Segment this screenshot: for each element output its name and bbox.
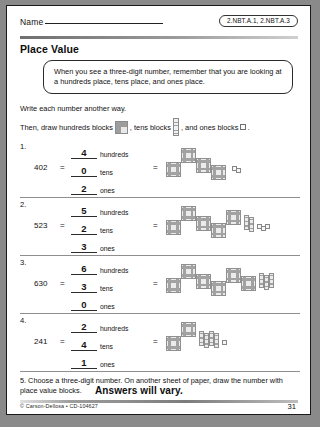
hundreds-answer[interactable]: 4 (71, 147, 97, 160)
equals-sign: = (60, 163, 65, 172)
block-drawing-area[interactable] (166, 202, 300, 252)
ones-unit-label: ones (100, 303, 115, 311)
page-title: Place Value (20, 43, 79, 55)
hundreds-block (241, 276, 256, 291)
ones-answer[interactable]: 0 (71, 299, 97, 312)
hundreds-block (166, 162, 181, 177)
ones-answer[interactable]: 2 (71, 183, 97, 196)
page-number: 31 (288, 402, 296, 411)
hundreds-block (196, 216, 211, 231)
tens-row: 4 tens (71, 333, 145, 351)
directions-line-2-a: Then, draw hundreds blocks (20, 122, 113, 133)
tens-block (249, 217, 254, 232)
problem-value: 241 (34, 337, 47, 346)
hundreds-block (196, 274, 211, 289)
hundreds-row: 6 hundreds (71, 257, 145, 275)
hundreds-block (226, 210, 241, 225)
ones-answer[interactable]: 1 (71, 357, 97, 370)
hundreds-block (166, 278, 181, 293)
problem-row: 1. 402 = 4 hundreds 0 tens 2 ones = (20, 140, 300, 198)
tens-block (214, 333, 219, 348)
tens-answer[interactable]: 4 (71, 339, 97, 352)
ones-block (222, 340, 227, 345)
problem-value: 402 (34, 163, 47, 172)
tens-block (269, 273, 274, 288)
name-write-line[interactable] (45, 23, 163, 24)
tens-row: 0 tens (71, 159, 145, 177)
ones-row: 0 ones (71, 293, 145, 311)
header-divider (20, 36, 298, 39)
hundreds-block (196, 158, 211, 173)
equals-sign-2: = (153, 221, 158, 230)
problem-number: 4. (20, 316, 26, 325)
worksheet-page: Name 2.NBT.A.1, 2.NBT.A.3 Place Value Wh… (6, 5, 311, 415)
hundreds-answer[interactable]: 6 (71, 263, 97, 276)
ones-answer[interactable]: 3 (71, 241, 97, 254)
ones-unit-label: ones (100, 361, 115, 369)
ones-row: 1 ones (71, 351, 145, 369)
ones-block (265, 224, 270, 229)
hundreds-unit-label: hundreds (100, 325, 128, 333)
name-label: Name (20, 17, 43, 27)
answers-will-vary-note: Answers will vary. (95, 385, 183, 396)
hundreds-block (211, 165, 226, 180)
problem-number: 2. (20, 200, 26, 209)
answer-stack: 4 hundreds 0 tens 2 ones (71, 141, 145, 195)
problem-row: 4. 241 = 2 hundreds 4 tens 1 ones = (20, 314, 300, 372)
hundreds-row: 5 hundreds (71, 199, 145, 217)
info-callout: When you see a three-digit number, remem… (43, 60, 293, 94)
directions: Write each number another way. Then, dra… (20, 103, 300, 136)
tens-answer[interactable]: 0 (71, 165, 97, 178)
block-drawing-area[interactable] (166, 260, 300, 310)
directions-line-1-text: Write each number another way. (20, 103, 126, 114)
ones-row: 3 ones (71, 235, 145, 253)
tens-answer[interactable]: 2 (71, 223, 97, 236)
directions-line-1: Write each number another way. (20, 103, 300, 114)
hundreds-block (166, 220, 181, 235)
answer-stack: 6 hundreds 3 tens 0 ones (71, 257, 145, 311)
problem-value: 523 (34, 221, 47, 230)
hundreds-block (181, 148, 196, 163)
hundreds-answer[interactable]: 5 (71, 205, 97, 218)
equals-sign: = (60, 221, 65, 230)
problem-value: 630 (34, 279, 47, 288)
problem-number: 3. (20, 258, 26, 267)
hundreds-block (181, 264, 196, 279)
block-drawing-area[interactable] (166, 318, 300, 368)
hundreds-unit-label: hundreds (100, 209, 128, 217)
ones-block (236, 168, 241, 173)
equals-sign: = (60, 337, 65, 346)
tens-answer[interactable]: 3 (71, 281, 97, 294)
answer-stack: 2 hundreds 4 tens 1 ones (71, 315, 145, 369)
hundreds-block (181, 206, 196, 221)
ones-block-icon (240, 124, 246, 130)
hundreds-row: 4 hundreds (71, 141, 145, 159)
page-header: Name 2.NBT.A.1, 2.NBT.A.3 (7, 6, 310, 40)
problem-row: 3. 630 = 6 hundreds 3 tens 0 ones = (20, 256, 300, 314)
tens-block-icon (173, 118, 179, 136)
directions-line-2-d: . (247, 122, 249, 133)
tens-row: 3 tens (71, 275, 145, 293)
tens-unit-label: tens (100, 285, 113, 293)
tens-unit-label: tens (100, 227, 113, 235)
ones-row: 2 ones (71, 177, 145, 195)
standards-badge: 2.NBT.A.1, 2.NBT.A.3 (219, 15, 298, 27)
hundreds-block (226, 268, 241, 283)
copyright-text: © Carson-Dellosa • CD-104627 (20, 403, 98, 409)
hundreds-block (166, 336, 181, 351)
equals-sign-2: = (153, 279, 158, 288)
name-field-row[interactable]: Name (20, 17, 163, 27)
hundreds-unit-label: hundreds (100, 267, 128, 275)
hundreds-block (211, 223, 226, 238)
directions-line-2: Then, draw hundreds blocks , tens blocks… (20, 118, 300, 136)
hundreds-block-icon (115, 121, 128, 134)
tens-row: 2 tens (71, 217, 145, 235)
block-drawing-area[interactable] (166, 144, 300, 194)
hundreds-block (181, 322, 196, 337)
ones-unit-label: ones (100, 187, 115, 195)
ones-unit-label: ones (100, 245, 115, 253)
hundreds-answer[interactable]: 2 (71, 321, 97, 334)
equals-sign: = (60, 279, 65, 288)
answer-stack: 5 hundreds 2 tens 3 ones (71, 199, 145, 253)
hundreds-block (211, 281, 226, 296)
